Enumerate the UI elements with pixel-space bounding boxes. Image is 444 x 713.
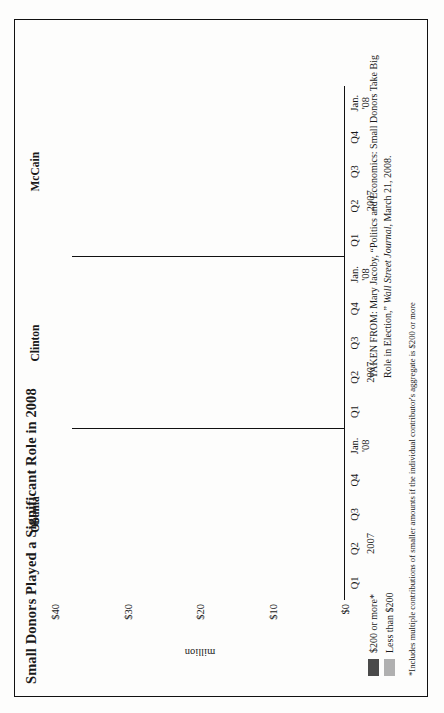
landscape-canvas: Small Donors Played a Significant Role i… bbox=[15, 20, 429, 698]
source-publication: Wall Street Journal bbox=[382, 227, 393, 304]
category-label: Q2 bbox=[349, 371, 360, 384]
bar-slot: Q4 bbox=[55, 294, 345, 323]
bar-slot: Q3 bbox=[55, 500, 345, 529]
panel-title: Clinton bbox=[29, 257, 41, 428]
category-label: Q1 bbox=[349, 576, 360, 589]
bar-slot: Q2 bbox=[55, 191, 345, 220]
period-year-label: 2007 bbox=[365, 429, 376, 600]
category-label: Q1 bbox=[349, 405, 360, 418]
rotation-wrapper: Small Donors Played a Significant Role i… bbox=[15, 20, 429, 698]
legend-swatch-small-icon bbox=[384, 659, 395, 676]
panel-obama: ObamaQ1Q2Q3Q4Jan.'082007 bbox=[55, 429, 345, 600]
panel-group: ObamaQ1Q2Q3Q4Jan.'082007ClintonQ1Q2Q3Q4J… bbox=[55, 86, 345, 600]
bar-slot: Q3 bbox=[55, 157, 345, 186]
source-suffix: , March 21, 2008. bbox=[382, 155, 393, 226]
bar-slot: Jan.'08 bbox=[55, 431, 345, 460]
plot-area: million $40 $30 $20 $10 $0 ObamaQ1Q2Q3Q4… bbox=[55, 86, 345, 646]
category-label: Q2 bbox=[349, 200, 360, 213]
bar-slot: Q2 bbox=[55, 363, 345, 392]
value-tick-40: $40 bbox=[50, 604, 61, 620]
bar-slot: Q1 bbox=[55, 397, 345, 426]
bar-slot: Jan.'08 bbox=[55, 89, 345, 118]
legend-swatch-large-icon bbox=[368, 659, 379, 676]
value-tick-10: $10 bbox=[267, 604, 278, 620]
category-label: Q4 bbox=[349, 474, 360, 487]
legend-item-small: Less than $200 bbox=[383, 592, 397, 676]
page: Small Donors Played a Significant Role i… bbox=[0, 0, 444, 713]
bar-slot: Q3 bbox=[55, 328, 345, 357]
bar-slot: Q1 bbox=[55, 568, 345, 597]
bar-slot: Q4 bbox=[55, 466, 345, 495]
legend-item-large: $200 or more* bbox=[367, 592, 381, 676]
value-axis-title: million bbox=[185, 647, 215, 658]
source-credit: TAKEN FROM: Mary Jacoby, “Politics and E… bbox=[367, 48, 394, 378]
category-label: Q3 bbox=[349, 337, 360, 350]
category-label: Q4 bbox=[349, 131, 360, 144]
figure-frame: Small Donors Played a Significant Role i… bbox=[14, 19, 428, 697]
category-label: Q3 bbox=[349, 508, 360, 521]
value-axis: million $40 $30 $20 $10 $0 bbox=[55, 600, 345, 646]
panel-clinton: ClintonQ1Q2Q3Q4Jan.'082007 bbox=[55, 257, 345, 428]
footnote: *Includes multiple contributions of smal… bbox=[407, 302, 417, 676]
category-label: Q4 bbox=[349, 302, 360, 315]
bar-slot: Q2 bbox=[55, 534, 345, 563]
panel-title: McCain bbox=[29, 86, 41, 257]
value-tick-20: $20 bbox=[195, 604, 206, 620]
value-tick-30: $30 bbox=[122, 604, 133, 620]
legend: $200 or more*Less than $200 bbox=[367, 592, 398, 676]
bar-slot: Q4 bbox=[55, 123, 345, 152]
category-label: Q3 bbox=[349, 165, 360, 178]
bar-slot: Q1 bbox=[55, 226, 345, 255]
value-tick-0: $0 bbox=[340, 604, 351, 615]
bar-slot: Jan.'08 bbox=[55, 260, 345, 289]
panel-title: Obama bbox=[29, 429, 41, 600]
category-label: Q1 bbox=[349, 234, 360, 247]
panel-mccain: McCainQ1Q2Q3Q4Jan.'082007 bbox=[55, 86, 345, 257]
category-label: Q2 bbox=[349, 542, 360, 555]
legend-label: Less than $200 bbox=[383, 592, 397, 653]
legend-label: $200 or more* bbox=[367, 594, 381, 653]
